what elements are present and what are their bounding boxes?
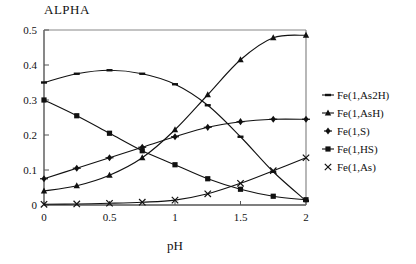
dash-marker-icon	[321, 88, 335, 102]
data-point-marker	[140, 148, 145, 153]
data-point-marker	[302, 116, 310, 123]
data-point-marker	[74, 113, 79, 118]
x-tick-label: 1	[172, 211, 178, 223]
data-point-marker	[73, 165, 81, 172]
data-point-marker	[41, 97, 46, 102]
y-tick-label: 0.5	[23, 24, 37, 36]
legend-item-fe-1-ash-[interactable]: Fe(1,AsH)	[321, 104, 416, 122]
chart-legend: Fe(1,As2H)Fe(1,AsH)Fe(1,S)Fe(1,HS)Fe(1,A…	[321, 86, 416, 176]
data-point-marker	[269, 116, 277, 123]
diamond-marker-icon	[321, 124, 335, 138]
legend-marker	[321, 142, 335, 156]
data-point-marker	[106, 154, 114, 161]
data-point-marker	[271, 194, 276, 199]
legend-marker	[321, 124, 335, 138]
legend-marker	[321, 88, 335, 102]
legend-label: Fe(1,HS)	[337, 143, 378, 155]
legend-label: Fe(1,As)	[337, 161, 376, 173]
data-point-marker	[74, 73, 80, 75]
data-point-marker	[107, 69, 113, 71]
data-point-marker	[237, 180, 243, 186]
x-tick-label: 0.5	[103, 211, 117, 223]
data-point-marker	[238, 136, 244, 138]
data-point-marker	[139, 154, 145, 160]
square-marker-glyph	[325, 146, 330, 151]
data-point-marker	[237, 118, 245, 125]
data-point-marker	[172, 162, 177, 167]
legend-item-fe-1-hs-[interactable]: Fe(1,HS)	[321, 140, 416, 158]
legend-item-fe-1-as2h-[interactable]: Fe(1,As2H)	[321, 86, 416, 104]
x-tick-label: 2	[303, 211, 309, 223]
legend-label: Fe(1,S)	[337, 125, 370, 137]
cross-marker-glyph	[325, 164, 331, 170]
cross-marker-icon	[321, 160, 335, 174]
y-tick-label: 0.4	[23, 59, 37, 71]
x-tick-label: 0	[41, 211, 47, 223]
series-line	[44, 35, 306, 191]
data-point-marker	[171, 133, 179, 140]
triangle-marker-icon	[321, 106, 335, 120]
data-point-marker	[303, 197, 308, 202]
data-point-marker	[172, 83, 178, 85]
data-point-marker	[40, 175, 48, 182]
x-axis-title: pH	[167, 238, 183, 253]
diamond-marker-glyph	[324, 127, 332, 134]
series-line	[44, 100, 306, 200]
x-tick-label: 1.5	[234, 211, 248, 223]
legend-marker	[321, 106, 335, 120]
legend-label: Fe(1,AsH)	[337, 107, 384, 119]
data-point-marker	[107, 131, 112, 136]
square-marker-icon	[321, 142, 335, 156]
legend-marker	[321, 160, 335, 174]
data-point-marker	[205, 104, 211, 106]
data-point-marker	[205, 176, 210, 181]
y-tick-label: 0.3	[23, 94, 37, 106]
series-fe-1-hs-	[41, 97, 308, 202]
y-tick-label: 0.1	[23, 164, 37, 176]
y-tick-label: 0	[32, 199, 38, 211]
data-point-marker	[41, 81, 47, 83]
series-fe-1-ash-	[41, 32, 309, 194]
legend-item-fe-1-as-[interactable]: Fe(1,As)	[321, 158, 416, 176]
dash-marker-glyph	[325, 94, 331, 96]
data-point-marker	[204, 124, 212, 131]
data-point-marker	[238, 187, 243, 192]
legend-label: Fe(1,As2H)	[337, 89, 389, 101]
legend-item-fe-1-s-[interactable]: Fe(1,S)	[321, 122, 416, 140]
data-point-marker	[139, 73, 145, 75]
chart-figure: ALPHA 00.10.20.30.40.500.511.52pH Fe(1,A…	[0, 0, 416, 264]
y-tick-label: 0.2	[23, 129, 37, 141]
